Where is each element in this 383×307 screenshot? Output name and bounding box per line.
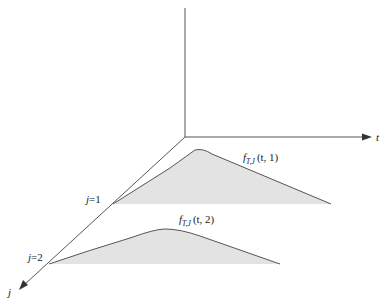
curve-label-j2: fT,J(t, 2) (179, 213, 215, 228)
tick-label-j1: j=1 (84, 193, 101, 205)
j-axis-arrow-icon (19, 280, 28, 290)
joint-density-diagram: t j j=1 j=2 fT,J(t, 1) fT,J(t, 2) (0, 0, 383, 307)
t-axis-label: t (376, 131, 380, 143)
density-region-j2 (49, 229, 280, 264)
curve-label-j1: fT,J(t, 1) (243, 151, 279, 166)
t-axis-arrow-icon (362, 134, 372, 141)
diagram-svg: t j j=1 j=2 fT,J(t, 1) fT,J(t, 2) (0, 0, 383, 307)
tick-label-j2: j=2 (26, 251, 43, 263)
j-axis-label: j (6, 286, 11, 298)
